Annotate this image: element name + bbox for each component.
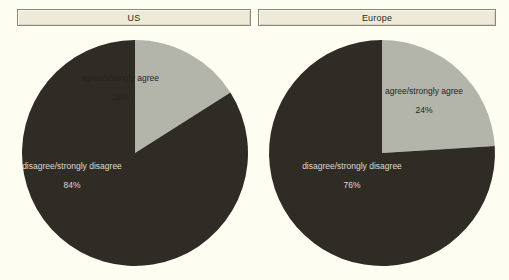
panel-title-europe-label: Europe	[362, 13, 392, 23]
pie-chart-europe: agree/strongly agree 24% disagree/strong…	[257, 30, 507, 280]
pie-chart-figure: US Europe agree/strongly agree 16% disag…	[0, 0, 509, 280]
panel-title-us-label: US	[128, 13, 141, 23]
panel-title-us: US	[17, 9, 251, 26]
pie-chart-us-svg	[10, 30, 260, 280]
pie-chart-us: agree/strongly agree 16% disagree/strong…	[10, 30, 260, 280]
pie-chart-europe-svg	[257, 30, 507, 280]
pie-slice	[382, 40, 495, 153]
panel-title-europe: Europe	[258, 9, 496, 26]
